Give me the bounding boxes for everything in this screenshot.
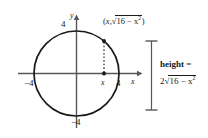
coord-radicand-exponent: 2 (138, 15, 141, 21)
coord-radicand-base: 16 − x (116, 16, 138, 26)
height-radicand-exponent: 2 (193, 75, 196, 81)
x-axis-label: x (131, 78, 135, 86)
height-label: height = (160, 60, 191, 69)
point-x-tick-label: x (101, 79, 105, 87)
x-tick-label-negative-4: −4 (24, 79, 34, 88)
height-radicand: 16 − x2 (168, 75, 196, 86)
x-axis-arrowhead (137, 71, 143, 77)
circle-height-figure: y x 4 −4 −4 4 x (x,√16 − x2) height = 2√… (0, 0, 208, 138)
point-coordinate-label: (x,√16 − x2) (103, 15, 145, 25)
y-axis-label: y (70, 12, 74, 20)
point-on-axis-marker (102, 72, 106, 76)
y-tick-label-positive-4: 4 (61, 20, 66, 29)
height-radicand-base: 16 − x (169, 76, 192, 86)
coord-sqrt-group: √16 − x2 (112, 15, 142, 25)
y-axis-arrowhead (74, 15, 80, 21)
height-sqrt-group: √16 − x2 (165, 75, 197, 86)
point-on-circle-marker (102, 39, 106, 43)
height-expression: 2√16 − x2 (160, 75, 196, 86)
x-tick-label-positive-4: 4 (116, 79, 121, 88)
coord-radicand: 16 − x2 (115, 15, 141, 25)
coord-close-paren: ) (142, 16, 145, 26)
y-tick-label-negative-4: −4 (71, 118, 81, 127)
